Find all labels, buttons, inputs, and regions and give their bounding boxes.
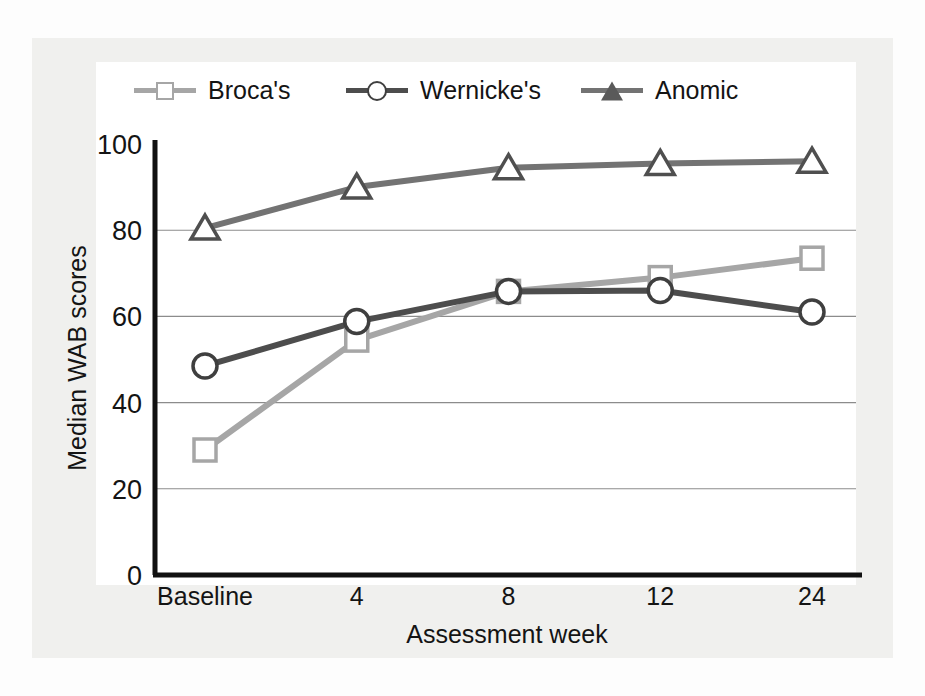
- y-tick-label: 80: [112, 216, 142, 246]
- data-point-marker: [193, 354, 217, 378]
- data-point-marker: [800, 300, 824, 324]
- data-point-marker: [497, 279, 521, 303]
- axis-lines: [153, 140, 862, 575]
- x-tick-label: 24: [798, 582, 826, 610]
- data-series-layer: [191, 148, 826, 461]
- figure-root: Broca's Wernicke's Anomic 100806040200: [0, 0, 925, 696]
- y-tick-label: 60: [112, 302, 142, 332]
- y-tick-label: 100: [97, 130, 142, 160]
- data-point-marker: [345, 310, 369, 334]
- y-tick-label: 0: [127, 561, 142, 591]
- y-tick-label: 20: [112, 475, 142, 505]
- x-tick-label: 8: [502, 582, 516, 610]
- x-tick-label: 4: [350, 582, 364, 610]
- chart-plot-area: 100806040200 Baseline481224 Median WAB s…: [0, 0, 925, 696]
- x-tick-label: Baseline: [157, 582, 253, 610]
- x-axis-tick-labels: Baseline481224: [157, 582, 826, 610]
- data-point-marker: [801, 247, 823, 269]
- y-axis-title: Median WAB scores: [63, 245, 91, 471]
- x-axis-title: Assessment week: [406, 620, 608, 648]
- data-point-marker: [648, 279, 672, 303]
- data-point-marker: [194, 439, 216, 461]
- y-axis-tick-labels: 100806040200: [97, 130, 142, 591]
- y-tick-label: 40: [112, 389, 142, 419]
- x-tick-label: 12: [646, 582, 674, 610]
